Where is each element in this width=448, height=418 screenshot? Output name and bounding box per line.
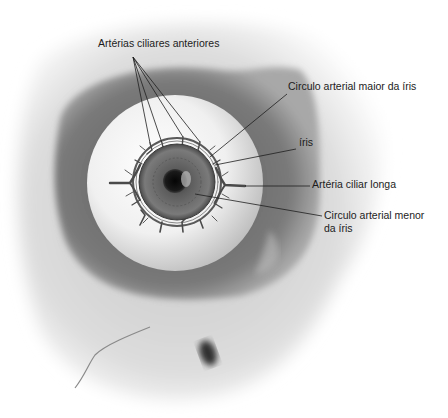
eye-anatomy-figure: Artérias ciliares anteriores Circulo art… <box>0 0 448 418</box>
label-long-ciliary-artery: Artéria ciliar longa <box>312 178 396 191</box>
label-minor-arterial-circle: Circulo arterial menor <box>324 209 424 222</box>
label-major-arterial-circle: Circulo arterial maior da íris <box>288 80 416 93</box>
label-minor-arterial-circle-line2: da íris <box>324 222 353 235</box>
label-anterior-ciliary-arteries: Artérias ciliares anteriores <box>98 37 219 50</box>
label-iris: íris <box>299 136 313 149</box>
